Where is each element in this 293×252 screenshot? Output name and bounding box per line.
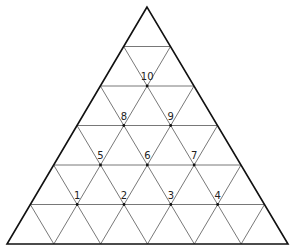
vertex-dot [216, 203, 219, 206]
point-label: 8 [121, 111, 127, 122]
point-label: 5 [97, 150, 103, 161]
point-2: 2 [121, 190, 127, 206]
point-label: 9 [167, 111, 173, 122]
point-label: 3 [168, 190, 174, 201]
grid-line-diagonal-right [30, 205, 53, 245]
vertex-dot [146, 164, 149, 167]
point-label: 7 [191, 150, 197, 161]
vertex-dot [146, 85, 149, 88]
point-9: 9 [167, 111, 173, 127]
point-3: 3 [168, 190, 174, 206]
point-label: 6 [144, 150, 150, 161]
vertex-dot [169, 203, 172, 206]
point-6: 6 [144, 150, 150, 166]
triangular-grid-diagram: 12345678910 [0, 0, 293, 252]
grid-line-diagonal-right [77, 126, 148, 245]
grid-line-diagonal-left [148, 126, 218, 245]
vertex-dot [76, 203, 79, 206]
point-label: 10 [141, 71, 154, 82]
vertex-dot [123, 203, 126, 206]
point-label: 4 [214, 190, 220, 201]
vertex-dot [193, 164, 196, 167]
point-8: 8 [121, 111, 127, 127]
point-10: 10 [141, 71, 154, 87]
point-label: 1 [74, 190, 80, 201]
point-4: 4 [214, 190, 220, 206]
vertex-dot [99, 164, 102, 167]
vertex-dot [122, 124, 125, 127]
point-7: 7 [191, 150, 197, 166]
grid-line-diagonal-left [241, 205, 264, 245]
vertex-dot [169, 124, 172, 127]
diagram-canvas: 12345678910 [0, 0, 293, 252]
point-5: 5 [97, 150, 103, 166]
labeled-points: 12345678910 [74, 71, 221, 206]
point-1: 1 [74, 190, 80, 206]
point-label: 2 [121, 190, 127, 201]
